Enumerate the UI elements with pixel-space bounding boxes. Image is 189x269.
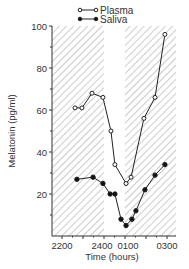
y-axis-title: Melatonin (pg/ml) bbox=[6, 94, 17, 167]
plasma-point bbox=[90, 91, 94, 95]
plasma-point bbox=[113, 163, 117, 167]
x-tick-label: 0300 bbox=[156, 240, 177, 251]
y-tick-label: 80 bbox=[36, 63, 47, 74]
y-tick-label: 100 bbox=[31, 21, 47, 32]
y-tick-label: 20 bbox=[36, 189, 47, 200]
saliva-point bbox=[113, 192, 117, 196]
saliva-point bbox=[153, 173, 157, 177]
legend: PlasmaSaliva bbox=[78, 5, 134, 25]
saliva-point bbox=[163, 162, 167, 166]
shaded-regions bbox=[52, 26, 176, 236]
plasma-point bbox=[124, 182, 128, 186]
plasma-point bbox=[80, 106, 84, 110]
legend-label-saliva: Saliva bbox=[100, 14, 128, 25]
saliva-point bbox=[130, 217, 134, 221]
y-tick-label: 40 bbox=[36, 147, 47, 158]
saliva-point bbox=[91, 175, 95, 179]
shaded-region-0 bbox=[52, 26, 104, 236]
legend-marker-icon bbox=[94, 17, 98, 21]
x-tick-label: 2400 bbox=[91, 240, 112, 251]
plasma-point bbox=[109, 129, 113, 133]
saliva-point bbox=[101, 181, 105, 185]
y-tick-label: 60 bbox=[36, 105, 47, 116]
legend-marker-icon bbox=[78, 17, 82, 21]
melatonin-chart: 204060801002200240001000300 PlasmaSaliva… bbox=[0, 0, 189, 269]
x-axis-title: Time (hours) bbox=[85, 251, 139, 262]
plasma-point bbox=[129, 175, 133, 179]
saliva-point bbox=[75, 177, 79, 181]
saliva-point bbox=[119, 217, 123, 221]
x-tick-label: 0100 bbox=[117, 240, 138, 251]
x-tick-label: 2200 bbox=[51, 240, 72, 251]
plasma-point bbox=[73, 106, 77, 110]
legend-marker-icon bbox=[78, 8, 82, 12]
plasma-point bbox=[101, 95, 105, 99]
legend-marker-icon bbox=[94, 8, 98, 12]
saliva-point bbox=[143, 188, 147, 192]
plasma-point bbox=[142, 116, 146, 120]
saliva-point bbox=[124, 223, 128, 227]
saliva-point bbox=[134, 209, 138, 213]
plasma-point bbox=[163, 32, 167, 36]
shaded-region-1 bbox=[125, 26, 176, 236]
saliva-point bbox=[108, 192, 112, 196]
plasma-point bbox=[153, 95, 157, 99]
